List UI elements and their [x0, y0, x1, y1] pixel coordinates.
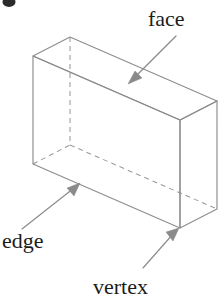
edge-arrow-head	[67, 183, 80, 196]
front-face	[33, 56, 180, 228]
face-leader	[128, 36, 176, 84]
visible-edges-group	[33, 37, 217, 228]
hidden-edge-bottom-left-depth	[33, 145, 70, 164]
label-face: face	[148, 6, 185, 31]
geometry-figure: face edge vertex	[0, 0, 224, 300]
right-side-face	[180, 101, 217, 228]
edge-leader-line	[22, 188, 74, 229]
face-arrow-head	[128, 71, 142, 84]
prism-diagram: face edge vertex	[0, 0, 224, 300]
label-vertex: vertex	[93, 274, 148, 299]
face-leader-line	[134, 36, 176, 78]
page-corner-mark	[3, 0, 16, 7]
hidden-edges-group	[33, 37, 217, 209]
label-edge: edge	[2, 228, 44, 253]
vertex-leader-line	[143, 234, 173, 268]
hidden-edge-back-bottom	[70, 145, 217, 209]
edge-leader	[22, 183, 80, 229]
top-face	[33, 37, 217, 120]
vertex-leader	[143, 228, 179, 268]
